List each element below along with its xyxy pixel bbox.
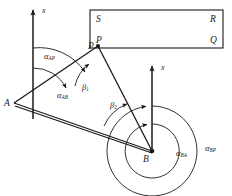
line-A-B-lower xyxy=(15,106,152,153)
beta-2-subscript: 2 xyxy=(114,105,117,111)
svg-text:αBP: αBP xyxy=(205,143,217,154)
frame-rectangle-outline xyxy=(90,10,223,48)
rect-corner-label-R: R xyxy=(209,14,216,24)
rect-corner-label-Q: Q xyxy=(210,35,217,45)
label-alpha-BP: αBP xyxy=(205,143,217,154)
beta-1-subscript: 1 xyxy=(86,87,89,93)
x-axis-at-B-label: x xyxy=(160,63,165,72)
alpha-AP-subscript: AP xyxy=(47,56,55,62)
bearing-arcs-at-A xyxy=(33,48,85,88)
alpha-BP-subscript: BP xyxy=(209,148,216,154)
interior-angle-arcs xyxy=(75,64,127,126)
triangle-sides xyxy=(14,46,152,153)
label-alpha-AB: αAB xyxy=(57,90,69,101)
label-beta-2: β2 xyxy=(109,100,117,111)
label-beta-1: β1 xyxy=(81,82,89,93)
label-alpha-AP: αAP xyxy=(44,51,56,62)
alpha-BA-subscript: BA xyxy=(180,153,187,159)
alpha-AB-subscript: AB xyxy=(60,95,68,101)
line-A-P xyxy=(14,46,98,103)
point-marker-B xyxy=(150,149,155,154)
point-label-B: B xyxy=(143,154,149,164)
diagram-canvas: x x A P B S R P Q αAP αAB αBA α xyxy=(0,0,232,196)
svg-text:αAP: αAP xyxy=(44,51,56,62)
point-label-A: A xyxy=(3,98,10,108)
svg-text:β1: β1 xyxy=(81,82,89,93)
svg-text:αBA: αBA xyxy=(176,148,188,159)
svg-text:αAB: αAB xyxy=(57,90,69,101)
triangulation-figure: x x A P B S R P Q αAP αAB αBA α xyxy=(0,0,232,196)
svg-text:β2: β2 xyxy=(109,100,117,111)
frame-rectangle xyxy=(90,10,223,48)
point-label-P: P xyxy=(87,41,94,51)
x-axis-at-A-label: x xyxy=(41,6,46,15)
rect-corner-label-S: S xyxy=(96,14,101,24)
label-alpha-BA: αBA xyxy=(176,148,188,159)
rect-corner-label-P: P xyxy=(95,35,102,45)
